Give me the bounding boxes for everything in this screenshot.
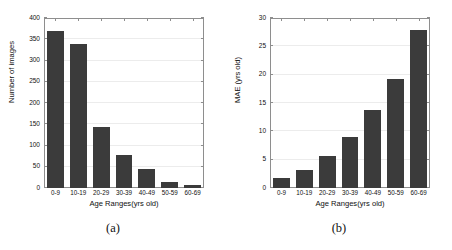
bar <box>47 31 64 188</box>
bar-slot <box>339 18 362 188</box>
x-tick-label: 40-49 <box>361 190 384 196</box>
y-tick-label: 10 <box>259 128 266 135</box>
x-tick-label: 40-49 <box>135 190 158 196</box>
chart-area-a: 050100150200250300350400 <box>44 18 204 188</box>
bar <box>138 169 155 188</box>
bar <box>70 44 87 188</box>
x-axis-title-a: Age Ranges(yrs old) <box>44 200 204 208</box>
bar-slot <box>407 18 430 188</box>
y-axis-title-b: MAE (yrs old) <box>234 57 242 103</box>
y-tick-label: 20 <box>259 71 266 78</box>
panel-caption-a: (a) <box>0 222 226 235</box>
x-tick-labels-a: 0-910-1920-2930-3940-4950-5960-69 <box>44 190 204 196</box>
bar <box>273 178 290 188</box>
bar <box>319 156 336 188</box>
bar-slot <box>293 18 316 188</box>
y-tick-label: 30 <box>259 15 266 22</box>
chart-area-b: 051015202530 <box>270 18 430 188</box>
bar-slot <box>113 18 136 188</box>
panel-b: MAE (yrs old) 051015202530 0-910-1920-29… <box>226 0 452 250</box>
y-tick-label: 15 <box>259 100 266 107</box>
panel-caption-b: (b) <box>226 222 452 235</box>
y-tick-label: 400 <box>29 15 40 22</box>
bar <box>387 79 404 188</box>
bar <box>342 137 359 188</box>
x-tick-labels-b: 0-910-1920-2930-3940-4950-5960-69 <box>270 190 430 196</box>
bar <box>161 182 178 188</box>
y-tick-label: 50 <box>33 164 40 171</box>
y-tick-label: 5 <box>262 156 266 163</box>
y-tick-label: 0 <box>36 185 40 192</box>
x-tick-label: 10-19 <box>293 190 316 196</box>
y-tick-label: 150 <box>29 121 40 128</box>
x-tick-label: 60-69 <box>181 190 204 196</box>
bar <box>364 110 381 188</box>
x-tick-label: 20-29 <box>90 190 113 196</box>
bar-series-a <box>44 18 204 188</box>
x-tick-label: 60-69 <box>407 190 430 196</box>
x-axis-title-b: Age Ranges(yrs old) <box>270 200 430 208</box>
x-tick-label: 50-59 <box>158 190 181 196</box>
y-tick-label: 0 <box>262 185 266 192</box>
figure: Number of images 05010015020025030035040… <box>0 0 452 250</box>
bar <box>93 127 110 188</box>
bar <box>410 30 427 188</box>
bar-slot <box>361 18 384 188</box>
bar <box>116 155 133 188</box>
bar-slot <box>316 18 339 188</box>
bar <box>184 185 201 188</box>
bar-slot <box>181 18 204 188</box>
bar-slot <box>270 18 293 188</box>
bar-slot <box>90 18 113 188</box>
panel-a: Number of images 05010015020025030035040… <box>0 0 226 250</box>
bar-slot <box>135 18 158 188</box>
x-tick-label: 0-9 <box>44 190 67 196</box>
x-tick-label: 0-9 <box>270 190 293 196</box>
x-tick-label: 20-29 <box>316 190 339 196</box>
x-tick-label: 50-59 <box>384 190 407 196</box>
bar-slot <box>158 18 181 188</box>
x-tick-label: 30-39 <box>339 190 362 196</box>
y-tick-label: 250 <box>29 79 40 86</box>
y-tick-label: 200 <box>29 100 40 107</box>
y-tick-label: 300 <box>29 57 40 64</box>
bar-slot <box>67 18 90 188</box>
bar-series-b <box>270 18 430 188</box>
y-tick-label: 350 <box>29 36 40 43</box>
bar-slot <box>384 18 407 188</box>
x-tick-label: 30-39 <box>113 190 136 196</box>
x-tick-label: 10-19 <box>67 190 90 196</box>
y-axis-title-a: Number of images <box>8 41 16 103</box>
bar <box>296 170 313 188</box>
y-tick-label: 100 <box>29 142 40 149</box>
bar-slot <box>44 18 67 188</box>
y-tick-label: 25 <box>259 43 266 50</box>
